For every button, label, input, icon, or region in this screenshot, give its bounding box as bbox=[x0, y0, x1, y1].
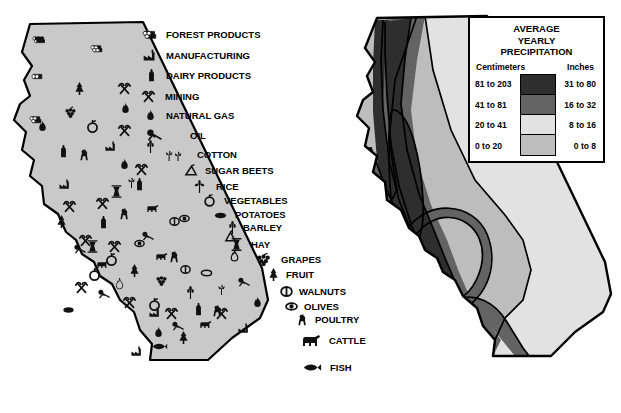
resource-map-panel: FOREST PRODUCTS MANUFACTURING DAIRY PROD… bbox=[0, 0, 360, 413]
legend-label: VEGETABLES bbox=[224, 195, 288, 206]
legend-range-cm-1: 41 to 81 bbox=[475, 95, 521, 115]
legend-label: RICE bbox=[216, 181, 239, 192]
factory-icon bbox=[237, 322, 250, 335]
milk-carton-icon bbox=[144, 69, 159, 82]
barley-icon bbox=[225, 221, 240, 234]
fruit-tree-icon bbox=[55, 215, 68, 228]
legend-label: POULTRY bbox=[315, 314, 359, 325]
title-line-3: PRECIPITATION bbox=[470, 46, 603, 58]
legend-label: MINING bbox=[165, 91, 199, 102]
hay-icon bbox=[86, 240, 99, 253]
crossed-picks-icon bbox=[96, 197, 109, 210]
precipitation-legend-title: AVERAGE YEARLY PRECIPITATION bbox=[470, 23, 603, 58]
crossed-picks-icon bbox=[63, 200, 76, 213]
legend-column-header-inches: Inches bbox=[567, 62, 594, 72]
fruit-tree-icon bbox=[128, 264, 141, 277]
legend-label: COTTON bbox=[197, 149, 237, 160]
legend-label: POTATOES bbox=[235, 209, 286, 220]
legend-label: GRAPES bbox=[281, 254, 321, 265]
precipitation-map-panel: AVERAGE YEARLY PRECIPITATION Centimeters… bbox=[355, 0, 621, 413]
crossed-picks-icon bbox=[108, 240, 121, 253]
vegetables-icon bbox=[86, 120, 99, 133]
poultry-icon bbox=[118, 207, 131, 220]
olive-icon bbox=[133, 237, 146, 250]
gas-flame-icon bbox=[152, 326, 165, 339]
legend-label: OIL bbox=[190, 130, 206, 141]
hay-icon bbox=[229, 238, 244, 251]
cattle-icon bbox=[155, 250, 168, 263]
factory-icon bbox=[104, 140, 117, 153]
sugar-beet-icon bbox=[184, 164, 199, 177]
gas-flame-icon bbox=[113, 278, 126, 291]
page-root: FOREST PRODUCTS MANUFACTURING DAIRY PROD… bbox=[0, 0, 621, 413]
legend-range-cm-3: 0 to 20 bbox=[475, 136, 521, 156]
logs-icon bbox=[142, 28, 157, 41]
legend-column-header-centimeters: Centimeters bbox=[476, 62, 525, 72]
poultry-icon bbox=[168, 250, 181, 263]
cattle-icon bbox=[146, 202, 159, 215]
legend-range-in-1: 16 to 32 bbox=[548, 95, 596, 115]
cattle-icon bbox=[301, 334, 321, 347]
cattle-icon bbox=[96, 258, 109, 271]
precipitation-legend: AVERAGE YEARLY PRECIPITATION Centimeters… bbox=[468, 16, 605, 163]
oil-derrick-icon bbox=[238, 276, 251, 289]
gas-flame-icon bbox=[118, 158, 131, 171]
crossed-picks-icon bbox=[165, 307, 178, 320]
crossed-picks-icon bbox=[118, 82, 131, 95]
potato-icon bbox=[213, 208, 228, 221]
potato-icon bbox=[200, 266, 213, 279]
logs-icon bbox=[32, 33, 45, 46]
vegetables-icon bbox=[202, 194, 217, 207]
crossed-picks-icon bbox=[123, 296, 136, 309]
crossed-picks-icon bbox=[75, 281, 88, 294]
legend-label: NATURAL GAS bbox=[166, 110, 234, 121]
grapes-icon bbox=[155, 274, 168, 287]
olive-icon bbox=[284, 300, 299, 313]
legend-range-cm-0: 81 to 203 bbox=[475, 74, 521, 94]
title-line-1: AVERAGE bbox=[470, 23, 603, 35]
cotton-icon bbox=[125, 175, 138, 188]
walnut-icon bbox=[179, 263, 192, 276]
gas-flame-icon bbox=[36, 120, 49, 133]
fruit-tree-icon bbox=[73, 82, 86, 95]
legend-range-in-3: 0 to 8 bbox=[548, 136, 596, 156]
legend-label: OLIVES bbox=[304, 301, 339, 312]
legend-label: FOREST PRODUCTS bbox=[166, 29, 260, 40]
milk-carton-icon bbox=[192, 303, 205, 316]
legend-label: MANUFACTURING bbox=[166, 50, 250, 61]
legend-range-cm-2: 20 to 41 bbox=[475, 115, 521, 135]
crossed-picks-icon bbox=[118, 124, 131, 137]
legend-label: WALNUTS bbox=[299, 286, 346, 297]
oil-derrick-icon bbox=[98, 288, 111, 301]
legend-range-in-2: 8 to 16 bbox=[548, 115, 596, 135]
oil-derrick-icon bbox=[172, 320, 185, 333]
fish-icon bbox=[302, 361, 322, 374]
poultry-icon bbox=[295, 313, 310, 326]
rice-icon bbox=[192, 180, 207, 193]
california-resource-map bbox=[0, 0, 360, 413]
gas-flame-icon bbox=[228, 250, 241, 263]
barley-icon bbox=[184, 286, 197, 299]
fish-icon bbox=[152, 340, 168, 353]
gas-flame-icon bbox=[119, 102, 132, 115]
milk-carton-icon bbox=[57, 145, 70, 158]
grapes-icon bbox=[255, 253, 273, 266]
legend-label: FRUIT bbox=[286, 269, 314, 280]
legend-label: SUGAR BEETS bbox=[205, 165, 274, 176]
poultry-icon bbox=[78, 148, 91, 161]
gas-flame-icon bbox=[251, 296, 264, 309]
factory-icon bbox=[130, 345, 143, 358]
title-line-2: YEARLY bbox=[470, 35, 603, 47]
fruit-tree-icon bbox=[266, 268, 281, 281]
vegetables-icon bbox=[148, 298, 161, 311]
cotton-icon bbox=[215, 282, 228, 295]
hay-icon bbox=[110, 185, 123, 198]
grapes-icon bbox=[64, 106, 77, 119]
legend-label: BARLEY bbox=[243, 222, 282, 233]
cotton-icon bbox=[163, 148, 185, 161]
logs-icon bbox=[90, 42, 103, 55]
legend-label: HAY bbox=[251, 239, 270, 250]
poultry-icon bbox=[211, 304, 224, 317]
factory-icon bbox=[142, 49, 157, 62]
walnut-icon bbox=[279, 285, 294, 298]
